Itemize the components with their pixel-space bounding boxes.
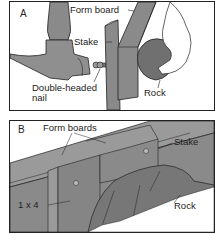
panel-b-letter: B [18, 124, 25, 135]
label-form-board: Form board [70, 5, 119, 15]
label-nail-line2: nail [32, 93, 47, 103]
label-rock: Rock [174, 201, 196, 211]
panel-b: B Form boards Stake 1 x 4 Rock [9, 120, 215, 233]
label-form-boards: Form boards [43, 123, 97, 133]
panel-a-letter: A [20, 8, 27, 19]
label-stake: Stake [174, 137, 198, 147]
panel-a: A Form board Stake Double-headed nail Ro… [9, 1, 215, 111]
label-rock: Rock [144, 88, 166, 98]
label-1x4: 1 x 4 [18, 200, 39, 210]
label-stake: Stake [74, 37, 98, 47]
